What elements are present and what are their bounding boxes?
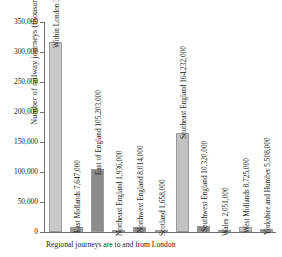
bar-east-of-england (91, 169, 104, 232)
bar-value-label: Wales 2,051,000 (221, 187, 230, 236)
chart-footnote: Regional journeys are to and from London (46, 240, 175, 249)
bar-southeast-england (176, 133, 189, 232)
bar-value-label: Northeast England 1,936,000 (115, 150, 124, 236)
y-tick-label: 0 (0, 227, 38, 236)
y-tick-label: 250,000 (0, 77, 38, 86)
bar-value-label: Scotland 1,658,000 (158, 179, 167, 236)
bar-value-label: Northwest England 8,014,000 (136, 146, 145, 234)
bar-value-label: East Midlands 7,647,000 (73, 160, 82, 233)
bar-value-label: East of England 105,203,000 (94, 90, 103, 175)
bar-value-label: Within London 316,935,000 (52, 0, 61, 48)
bar-value-label: West Midlands 8,725,000 (242, 158, 251, 233)
y-tick-mark (40, 232, 44, 233)
y-tick-label: 150,000 (0, 137, 38, 146)
y-tick-label: 50,000 (0, 197, 38, 206)
bar-value-label: Southwest England 10,320,000 (200, 141, 209, 232)
bars-group: Within London 316,935,000East Midlands 7… (44, 22, 276, 232)
y-tick-label: 200,000 (0, 107, 38, 116)
y-tick-label: 350,000 (0, 17, 38, 26)
y-tick-label: 100,000 (0, 167, 38, 176)
railway-journeys-bar-chart: Number of railway journeys (thousands) 0… (0, 0, 282, 257)
bar-value-label: Southeast England 164,232,000 (179, 47, 188, 140)
bar-within-london (49, 42, 62, 232)
bar-value-label: Yorkshire and Humber 5,508,000 (263, 137, 272, 235)
y-tick-label: 300,000 (0, 47, 38, 56)
